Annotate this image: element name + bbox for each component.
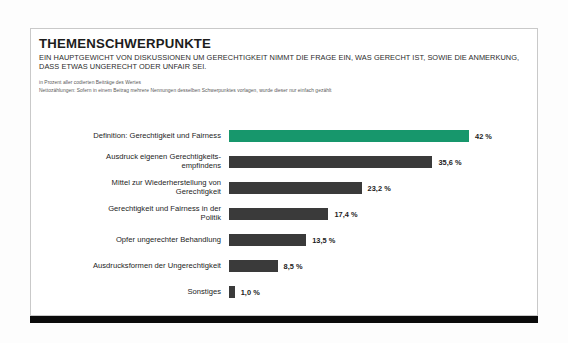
chart-row: Sonstiges1,0 % [39, 279, 529, 305]
bar-label-line: Ausdrucksformen der Ungerechtigkeit [39, 262, 221, 271]
page-title: THEMENSCHWERPUNKTE [39, 36, 529, 51]
bar[interactable] [229, 260, 278, 272]
bar-area: 35,6 % [229, 149, 529, 175]
bar-value-label: 17,4 % [334, 210, 357, 219]
footer-rule [30, 316, 538, 323]
bar-label-line: Politik [39, 214, 221, 223]
bar-label: Gerechtigkeit und Fairness in derPolitik [39, 205, 229, 223]
chart-row: Definition: Gerechtigkeit und Fairness42… [39, 123, 529, 149]
bar-label: Sonstiges [39, 288, 229, 297]
note-line-2: Nettozählungen: Sofern in einem Beitrag … [39, 87, 529, 94]
bar-area: 1,0 % [229, 279, 529, 305]
bar-value-label: 1,0 % [241, 288, 260, 297]
bar[interactable] [229, 156, 432, 168]
bar-chart: Definition: Gerechtigkeit und Fairness42… [39, 123, 529, 309]
bar-label-line: Gerechtigkeit [39, 188, 221, 197]
bar[interactable] [229, 182, 362, 194]
bar-label: Opfer ungerechter Behandlung [39, 236, 229, 245]
bar-value-label: 42 % [475, 132, 492, 141]
chart-row: Opfer ungerechter Behandlung13,5 % [39, 227, 529, 253]
bar-value-label: 13,5 % [312, 236, 335, 245]
bar-area: 13,5 % [229, 227, 529, 253]
note-line-1: in Prozent aller codierten Beiträge des … [39, 79, 529, 86]
bar-area: 8,5 % [229, 253, 529, 279]
chart-notes: in Prozent aller codierten Beiträge des … [39, 79, 529, 94]
bar[interactable] [229, 234, 306, 246]
bar-area: 42 % [229, 123, 529, 149]
chart-row: Gerechtigkeit und Fairness in derPolitik… [39, 201, 529, 227]
chart-page: THEMENSCHWERPUNKTE EIN HAUPTGEWICHT VON … [0, 0, 568, 343]
bar-label-line: empfindens [39, 162, 221, 171]
bar-area: 23,2 % [229, 175, 529, 201]
chart-header: THEMENSCHWERPUNKTE EIN HAUPTGEWICHT VON … [39, 36, 529, 94]
bar-area: 17,4 % [229, 201, 529, 227]
bar-label: Ausdrucksformen der Ungerechtigkeit [39, 262, 229, 271]
chart-subtitle: EIN HAUPTGEWICHT VON DISKUSSIONEN UM GER… [39, 53, 529, 71]
bar-label-line: Sonstiges [39, 288, 221, 297]
bar-label-line: Gerechtigkeit und Fairness in der [39, 205, 221, 214]
bar-label: Ausdruck eigenen Gerechtigkeits-empfinde… [39, 153, 229, 171]
bar-label: Mittel zur Wiederherstellung vonGerechti… [39, 179, 229, 197]
bar-label: Definition: Gerechtigkeit und Fairness [39, 132, 229, 141]
bar-value-label: 35,6 % [438, 158, 461, 167]
bar[interactable] [229, 286, 235, 298]
bar-value-label: 8,5 % [284, 262, 303, 271]
chart-row: Mittel zur Wiederherstellung vonGerechti… [39, 175, 529, 201]
bar[interactable] [229, 208, 328, 220]
chart-row: Ausdrucksformen der Ungerechtigkeit8,5 % [39, 253, 529, 279]
chart-card: THEMENSCHWERPUNKTE EIN HAUPTGEWICHT VON … [30, 28, 538, 316]
bar-label-line: Opfer ungerechter Behandlung [39, 236, 221, 245]
bar-label-line: Definition: Gerechtigkeit und Fairness [39, 132, 221, 141]
bar-value-label: 23,2 % [368, 184, 391, 193]
bar-highlight[interactable] [229, 130, 469, 142]
chart-row: Ausdruck eigenen Gerechtigkeits-empfinde… [39, 149, 529, 175]
